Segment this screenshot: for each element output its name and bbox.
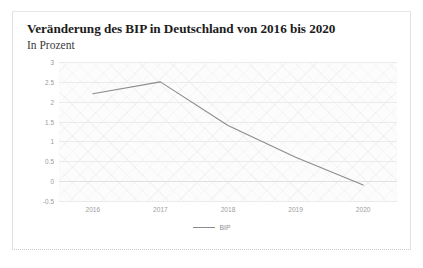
- y-tick-label: 0.5: [45, 158, 54, 165]
- y-tick-label: -0.5: [43, 198, 54, 205]
- x-tick-label: 2018: [221, 206, 236, 213]
- x-tick-label: 2016: [85, 206, 100, 213]
- gridline: [59, 201, 397, 202]
- plot-area: 32.521.510.50-0.5 20162017201820192020: [59, 62, 397, 201]
- line-path-bip: [93, 82, 363, 185]
- y-tick-label: 1: [50, 138, 54, 145]
- y-tick-label: 0: [50, 178, 54, 185]
- x-tick-label: 2020: [356, 206, 371, 213]
- y-tick-label: 2: [50, 98, 54, 105]
- series-line-bip: [59, 62, 397, 201]
- y-tick-label: 1.5: [45, 118, 54, 125]
- screenshot-root: Veränderung des BIP in Deutschland von 2…: [0, 0, 423, 268]
- x-tick-label: 2017: [153, 206, 168, 213]
- legend-label-bip: BIP: [220, 224, 231, 231]
- chart-subtitle: In Prozent: [27, 39, 75, 51]
- y-tick-label: 3: [50, 59, 54, 66]
- chart-card: Veränderung des BIP in Deutschland von 2…: [12, 11, 411, 250]
- x-tick-label: 2019: [288, 206, 303, 213]
- chart-legend: BIP: [13, 224, 410, 231]
- y-tick-label: 2.5: [45, 78, 54, 85]
- legend-swatch-bip: [193, 227, 215, 228]
- chart-title: Veränderung des BIP in Deutschland von 2…: [27, 21, 335, 37]
- plot-wrapper: 32.521.510.50-0.5 20162017201820192020: [27, 56, 399, 219]
